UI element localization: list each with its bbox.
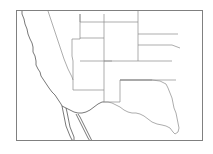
map-border-frame xyxy=(17,11,203,141)
map-canvas xyxy=(0,0,213,154)
thematic-map-figure xyxy=(0,0,213,154)
